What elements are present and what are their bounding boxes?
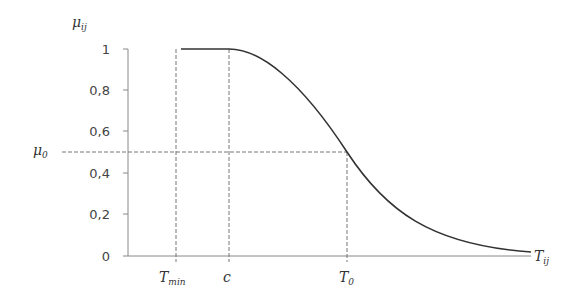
membership-function-chart: 1 0,8 0,6 0,4 0,2 0 μij Tij μ0 Tmin c T0 (0, 0, 581, 302)
y-tick-label: 0,6 (89, 124, 110, 139)
membership-curve (181, 49, 531, 252)
y-tick-label: 0 (102, 249, 110, 264)
t-min-label: Tmin (159, 269, 186, 287)
y-tick-label: 1 (102, 42, 110, 57)
y-ticks (123, 49, 128, 214)
c-label: c (223, 269, 231, 285)
mu0-label: μ0 (33, 142, 48, 160)
reference-lines (62, 49, 347, 262)
y-tick-label: 0,4 (89, 166, 110, 181)
y-tick-label: 0,2 (89, 207, 110, 222)
y-axis-label: μij (72, 14, 87, 32)
t0-label: T0 (339, 269, 354, 287)
x-axis-label: Tij (534, 248, 549, 266)
y-tick-label: 0,8 (89, 83, 110, 98)
y-tick-labels: 1 0,8 0,6 0,4 0,2 0 (89, 42, 110, 264)
